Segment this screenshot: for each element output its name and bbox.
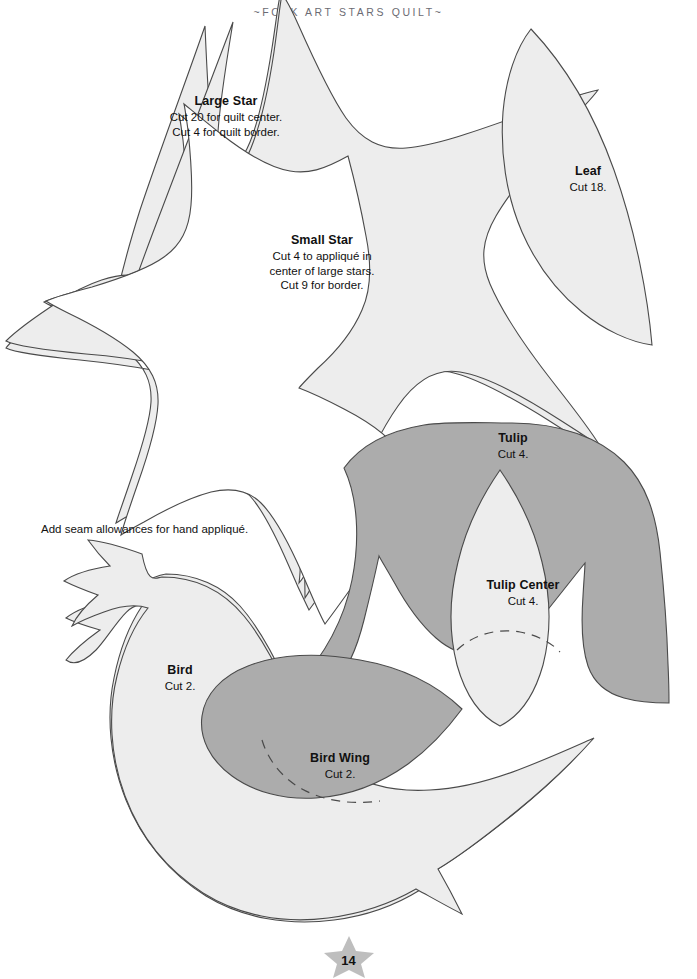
pattern-template-sheet	[0, 0, 697, 979]
bird-wing-template	[202, 655, 462, 802]
bird-wing-outline	[202, 655, 462, 798]
page-footer: 14	[0, 934, 697, 979]
seam-allowance-note: Add seam allowances for hand appliqué.	[41, 523, 248, 535]
leaf-outline	[502, 29, 652, 345]
leaf-template	[502, 29, 652, 345]
page-number: 14	[0, 953, 697, 968]
